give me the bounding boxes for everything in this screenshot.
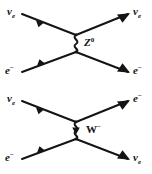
label-incoming-bottom-left: e− [5, 64, 14, 77]
incoming-line-top-left [22, 14, 76, 35]
incoming-line-top-left [22, 101, 76, 122]
propagator-wavy-z [75, 35, 78, 52]
vertex-top [75, 121, 78, 124]
incoming-line-bottom-left [22, 139, 76, 159]
outgoing-line-bottom-right [76, 52, 130, 73]
label-incoming-bottom-left: e− [5, 151, 14, 164]
label-mediator-z: Z0 [83, 36, 95, 49]
vertex-top [75, 34, 78, 37]
vertex-bottom [75, 51, 78, 54]
outgoing-line-bottom-right [76, 139, 130, 160]
label-outgoing-bottom-right: νe [133, 151, 141, 166]
label-outgoing-bottom-right: e− [133, 64, 142, 77]
label-incoming-top-left: νe [7, 92, 15, 107]
outgoing-line-top-right [76, 100, 130, 122]
label-mediator-w: W− [86, 123, 101, 136]
label-outgoing-top-right: νe [133, 5, 141, 20]
incoming-line-bottom-left [22, 52, 76, 72]
feynman-diagram-charged-current: νe e− e− νe W− [0, 87, 152, 174]
arrowhead-propagator-w [72, 128, 80, 135]
label-incoming-top-left: νe [7, 5, 15, 20]
vertex-bottom [75, 138, 78, 141]
feynman-diagram-figure: νe e− νe e− Z0 [0, 0, 152, 174]
outgoing-line-top-right [76, 13, 130, 35]
feynman-diagram-neutral-current: νe e− νe e− Z0 [0, 0, 152, 87]
label-outgoing-top-right: e− [133, 92, 142, 105]
